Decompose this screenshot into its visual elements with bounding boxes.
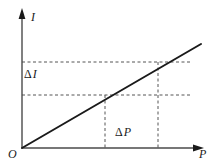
delta-i-variable: I [33,67,37,81]
delta-i-label: ΔI [24,68,37,80]
delta-p-variable: P [124,125,131,139]
data-line-series-1 [22,44,201,148]
origin-label: O [8,148,17,160]
y-axis-label: I [31,11,35,23]
chart-canvas [0,0,212,168]
delta-symbol-i: Δ [24,67,32,81]
delta-symbol-p: Δ [115,125,123,139]
delta-p-label: ΔP [115,126,131,138]
y-axis-arrowhead [19,8,26,19]
x-axis-label: P [199,148,206,160]
figure-root: I P O ΔI ΔP [0,0,212,168]
